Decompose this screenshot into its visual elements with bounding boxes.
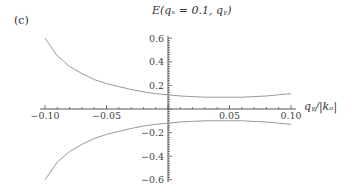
x-tick-label: −0.10 [30,110,59,121]
plot-area: −0.10−0.050.050.100.60.40.2−0.2−0.4−0.6 [0,0,352,196]
x-tick-label: −0.05 [92,110,121,121]
y-tick-label: 0.4 [149,56,164,67]
x-tick-label: 0.10 [280,110,301,121]
y-tick-label: 0.2 [149,80,164,91]
y-tick-label: −0.6 [141,174,164,185]
y-tick-label: −0.4 [141,151,164,162]
y-tick-label: 0.6 [149,33,164,44]
y-tick-label: −0.2 [141,127,164,138]
x-tick-label: 0.05 [219,110,240,121]
